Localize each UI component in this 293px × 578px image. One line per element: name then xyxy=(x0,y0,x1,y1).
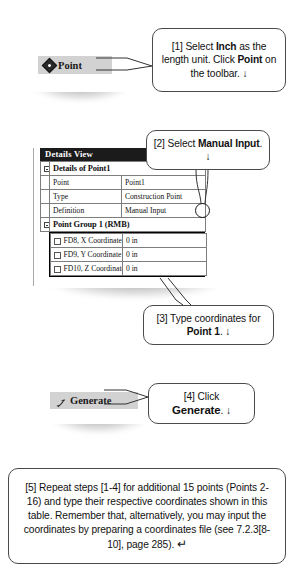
row-value[interactable]: Point1 xyxy=(122,176,206,190)
callout-step-4-prefix: [4] Click xyxy=(184,391,219,402)
point-toolbar-plate: Point xyxy=(22,42,140,92)
checkbox-icon[interactable] xyxy=(54,266,61,273)
point-button-label: Point xyxy=(58,60,82,71)
table-row[interactable]: Type Construction Point xyxy=(41,190,206,204)
callout-step-3-prefix: [3] Type coordinates for xyxy=(157,313,261,324)
row-gutter xyxy=(41,190,50,204)
row-label: Type xyxy=(50,190,122,204)
row-value-manual-input[interactable]: Manual Input xyxy=(122,204,206,218)
callout-step-3-arrow-icon: ↓ xyxy=(225,326,230,337)
table-row[interactable]: FD8, X Coordinate 0 in xyxy=(51,234,207,248)
table-row[interactable]: Point Point1 xyxy=(41,176,206,190)
callout-step-3: [3] Type coordinates for Point 1. ↓ xyxy=(143,305,274,345)
callout-step-2-suffix: . xyxy=(260,138,263,149)
callout-step-2: [2] Select Manual Input. ↓ xyxy=(146,130,270,170)
checkbox-icon[interactable] xyxy=(54,238,61,245)
generate-toolbar-button[interactable]: Generate xyxy=(50,392,138,409)
callout-step-1-arrow-icon: ↓ xyxy=(242,68,247,79)
row-label: Point xyxy=(50,176,122,190)
coordinate-label-z: FD10, Z Coordinate xyxy=(51,262,123,276)
expander-point-group-1[interactable] xyxy=(41,218,50,232)
details-table: Details of Point1 Point Point1 Type Cons… xyxy=(40,161,206,232)
coordinate-label-x-text: FD8, X Coordinate xyxy=(64,236,122,245)
table-row[interactable]: FD9, Y Coordinate 0 in xyxy=(51,248,207,262)
coordinate-value-z[interactable]: 0 in xyxy=(123,262,207,276)
generate-toolbar-plate: Generate xyxy=(40,380,158,424)
coordinate-table: FD8, X Coordinate 0 in FD9, Y Coordinate… xyxy=(50,233,207,276)
row-label: Definition xyxy=(50,204,122,218)
callout-step-3-bold: Point 1 xyxy=(187,326,220,337)
callout-step-2-bold: Manual Input xyxy=(198,138,260,149)
expander-details-of-point1[interactable] xyxy=(41,162,50,176)
coordinate-value-y[interactable]: 0 in xyxy=(123,248,207,262)
row-gutter xyxy=(41,176,50,190)
generate-icon xyxy=(56,395,67,406)
callout-step-1-bold-inch: Inch xyxy=(216,41,237,52)
row-value[interactable]: Construction Point xyxy=(122,190,206,204)
coordinate-label-y: FD9, Y Coordinate xyxy=(51,248,123,262)
coordinate-label-z-text: FD10, Z Coordinate xyxy=(64,264,123,273)
callout-step-4-arrow-icon: ↓ xyxy=(226,405,231,416)
coordinate-label-x: FD8, X Coordinate xyxy=(51,234,123,248)
callout-step-1-prefix: [1] Select xyxy=(172,41,216,52)
callout-step-1: [1] Select Inch as the length unit. Clic… xyxy=(152,28,286,92)
point-group-coordinate-box: FD8, X Coordinate 0 in FD9, Y Coordinate… xyxy=(49,232,205,277)
callout-step-4-bold: Generate xyxy=(172,404,221,416)
minus-box-icon xyxy=(44,222,50,228)
minus-box-icon xyxy=(44,166,50,172)
checkbox-icon[interactable] xyxy=(54,252,61,259)
coordinate-value-x[interactable]: 0 in xyxy=(123,234,207,248)
callout-step-5: [5] Repeat steps [1-4] for additional 15… xyxy=(8,468,286,564)
table-row-definition[interactable]: Definition Manual Input xyxy=(41,204,206,218)
table-row-group-header: Point Group 1 (RMB) xyxy=(41,218,206,232)
manual-input-highlight-circle xyxy=(195,203,210,218)
callout-step-5-return-icon: ↵ xyxy=(177,537,187,551)
row-gutter xyxy=(41,204,50,218)
callout-step-5-text: [5] Repeat steps [1-4] for additional 15… xyxy=(24,482,270,550)
coordinate-label-y-text: FD9, Y Coordinate xyxy=(64,250,122,259)
callout-step-2-prefix: [2] Select xyxy=(154,138,198,149)
table-row[interactable]: FD10, Z Coordinate 0 in xyxy=(51,262,207,276)
callout-step-1-bold-point: Point xyxy=(237,54,262,65)
generate-button-label: Generate xyxy=(70,395,111,406)
details-view-left-rule xyxy=(33,148,34,286)
callout-step-4: [4] Click Generate. ↓ xyxy=(148,383,255,424)
callout-step-2-arrow-icon: ↓ xyxy=(206,151,211,162)
group-header-label: Point Group 1 (RMB) xyxy=(50,218,206,232)
point-toolbar-button[interactable]: Point xyxy=(38,56,112,74)
point-diamond-icon xyxy=(42,57,58,73)
